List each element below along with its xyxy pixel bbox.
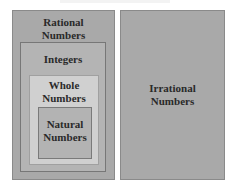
natural-numbers-box: Natural Numbers [38,107,92,159]
rational-label-line2: Numbers [13,29,114,42]
whole-label-line2: Numbers [30,92,98,105]
irrational-label-line2: Numbers [121,95,224,108]
natural-label-line1: Natural [39,118,91,131]
rational-label: Rational Numbers [13,16,114,42]
whole-label-line1: Whole [30,79,98,92]
cropped-title-remnant [60,0,170,3]
whole-label: Whole Numbers [30,79,98,105]
irrational-label: Irrational Numbers [121,82,224,108]
natural-label-line2: Numbers [39,131,91,144]
irrational-numbers-box: Irrational Numbers [120,10,225,180]
irrational-label-line1: Irrational [121,82,224,95]
integers-label: Integers [21,53,105,66]
natural-label: Natural Numbers [39,118,91,144]
rational-label-line1: Rational [13,16,114,29]
